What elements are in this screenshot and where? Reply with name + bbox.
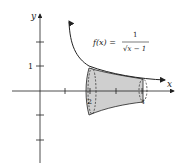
solid-of-revolution-diagram: y x 1 2 4 f(x) = 1 √x − 1	[0, 0, 178, 167]
function-label: f(x) =	[92, 38, 116, 47]
y-axis-label: y	[30, 11, 37, 21]
solid-region	[86, 68, 143, 115]
function-curve	[69, 22, 165, 80]
x-axis-label: x	[167, 79, 172, 89]
function-numerator: 1	[133, 31, 137, 39]
y-tick-label-1: 1	[28, 62, 33, 71]
diagram-svg: y x 1 2 4 f(x) = 1 √x − 1	[0, 0, 178, 167]
x-label-4: 4	[141, 98, 145, 105]
x-label-2: 2	[87, 97, 92, 106]
function-denominator: √x − 1	[123, 45, 146, 53]
